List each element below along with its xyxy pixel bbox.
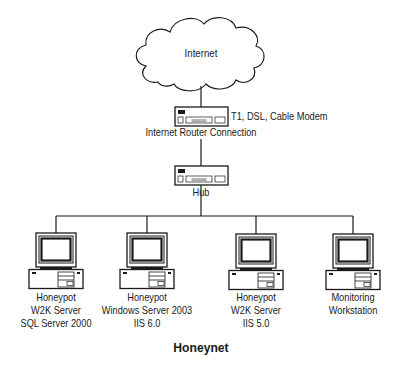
- computer-label-line: SQL Server 2000: [12, 317, 100, 330]
- computer-icon: [229, 234, 283, 290]
- hub-label: Hub: [183, 186, 218, 199]
- computer-label-line: IIS 5.0: [212, 317, 300, 330]
- computer-label-line: W2K Server: [212, 304, 300, 317]
- hub-icon: [175, 166, 228, 185]
- computer-label-line: Windows Server 2003: [99, 304, 196, 317]
- router-side-label: T1, DSL, Cable Modem: [231, 110, 328, 123]
- internet-label: Internet: [175, 47, 228, 60]
- computer-label-line: IIS 6.0: [99, 317, 196, 330]
- computer-label-line: Honeypot: [99, 291, 196, 304]
- computer-label-line: Honeypot: [212, 291, 300, 304]
- computer-label-line: W2K Server: [12, 304, 100, 317]
- router-label: Internet Router Connection: [139, 126, 262, 139]
- computer-label-line: Honeypot: [12, 291, 100, 304]
- computer-label-line: Workstation: [309, 304, 397, 317]
- computer-icon: [120, 233, 174, 289]
- diagram-title: Honeynet: [156, 340, 246, 355]
- computer-icon: [29, 233, 83, 289]
- computer-icon: [326, 234, 380, 290]
- computer-label-line: Monitoring: [309, 291, 397, 304]
- router-icon: [175, 107, 228, 126]
